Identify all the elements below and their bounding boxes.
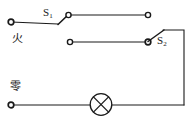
circuit-schematic-svg [0,0,195,121]
neutral-wire-label: 零 [10,81,21,92]
switch-s1-subscript: 1 [49,12,53,20]
terminal-neutral-left [8,102,14,108]
terminal-live-left [8,19,14,25]
lamp-icon [90,94,112,116]
circuit-diagram-figure: S1 S2 火 零 [0,0,195,121]
switch-s2-subscript: 2 [163,40,167,48]
wire-live-to-s1 [11,22,58,24]
terminal-middle-left [67,39,72,44]
terminal-s1-contact [66,12,71,17]
terminal-top-right [145,12,150,17]
switch-s2-label: S2 [157,35,167,46]
live-wire-label: 火 [12,33,23,44]
switch-s1-label: S1 [43,7,53,18]
